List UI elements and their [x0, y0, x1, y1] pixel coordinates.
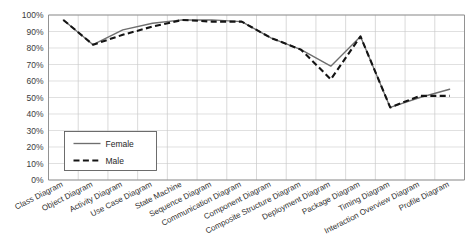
chart-container: 100%90%80%70%60%50%40%30%20%10%0% Class …: [0, 0, 475, 241]
chart-legend: FemaleMale: [65, 132, 157, 171]
y-axis-tick-label: 60%: [26, 76, 43, 86]
y-axis-tick-labels: 100%90%80%70%60%50%40%30%20%10%0%: [22, 10, 44, 185]
x-axis-tick-labels: Class DiagramObject DiagramActivity Diag…: [13, 180, 450, 236]
y-axis-tick-label: 40%: [26, 109, 43, 119]
line-chart: 100%90%80%70%60%50%40%30%20%10%0% Class …: [0, 0, 475, 241]
y-axis-tick-label: 100%: [22, 10, 44, 20]
legend-label-female: Female: [106, 139, 135, 149]
y-axis-tick-label: 30%: [26, 126, 43, 136]
legend-label-male: Male: [106, 156, 125, 166]
y-axis-tick-label: 80%: [26, 43, 43, 53]
y-axis-tick-label: 0%: [31, 175, 44, 185]
y-axis-tick-label: 70%: [26, 60, 43, 70]
y-axis-tick-label: 90%: [26, 27, 43, 37]
y-axis-tick-label: 20%: [26, 142, 43, 152]
y-axis-tick-label: 50%: [26, 93, 43, 103]
y-axis-tick-label: 10%: [26, 159, 43, 169]
